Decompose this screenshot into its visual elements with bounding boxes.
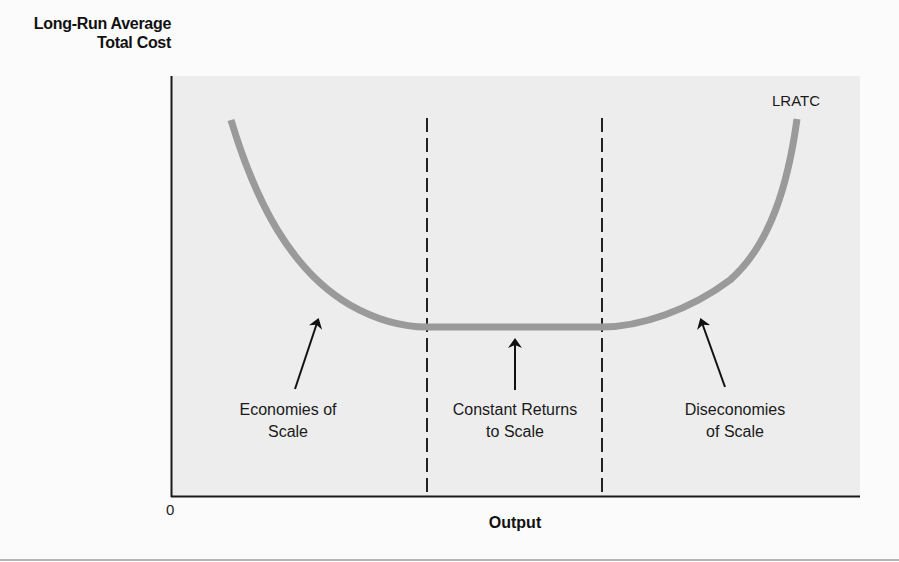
diseconomies-line1: Diseconomies bbox=[660, 399, 810, 421]
constant-line1: Constant Returns bbox=[432, 399, 598, 421]
economies-line1: Economies of bbox=[208, 399, 368, 421]
economies-of-scale-label: Economies of Scale bbox=[208, 399, 368, 443]
economies-line2: Scale bbox=[208, 421, 368, 443]
arrow-economies-icon bbox=[295, 320, 318, 389]
x-axis-title: Output bbox=[465, 514, 565, 532]
constant-line2: to Scale bbox=[432, 421, 598, 443]
bottom-divider bbox=[0, 559, 899, 561]
diseconomies-line2: of Scale bbox=[660, 421, 810, 443]
chart-canvas bbox=[0, 0, 899, 562]
origin-label: 0 bbox=[166, 501, 174, 518]
diseconomies-of-scale-label: Diseconomies of Scale bbox=[660, 399, 810, 443]
lratc-label: LRATC bbox=[772, 92, 820, 109]
arrow-diseconomies-icon bbox=[701, 320, 725, 387]
constant-returns-label: Constant Returns to Scale bbox=[432, 399, 598, 443]
lratc-curve bbox=[231, 119, 797, 327]
